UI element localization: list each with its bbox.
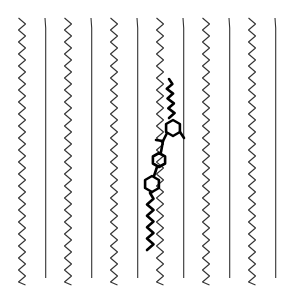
- lipid-chain-zigzag: [19, 18, 26, 285]
- lipid-chains: [19, 18, 276, 285]
- alkyl-tail-top: [167, 79, 175, 118]
- alkyl-tail-bottom: [147, 192, 154, 250]
- guest-molecule: [145, 79, 184, 250]
- diagram-canvas: Lipid bilayer-like array of hydrocarbon …: [0, 0, 292, 299]
- aromatic-ring-1: [166, 120, 180, 136]
- lipid-chain-straight: [229, 18, 230, 278]
- linker-branch: [156, 140, 163, 141]
- lipid-chain-straight: [137, 18, 138, 278]
- lipid-chain-straight: [275, 18, 276, 278]
- lipid-chain-straight: [45, 18, 46, 278]
- lipid-chain-zigzag: [111, 18, 118, 285]
- lipid-chain-zigzag: [203, 18, 210, 285]
- aromatic-ring-3: [145, 176, 159, 192]
- lipid-chain-zigzag: [65, 18, 72, 285]
- lipid-chain-zigzag: [249, 18, 256, 285]
- lipid-chain-straight: [183, 18, 184, 278]
- membrane-diagram: [0, 0, 292, 299]
- lipid-chain-straight: [91, 18, 92, 278]
- linker-1: [161, 133, 167, 152]
